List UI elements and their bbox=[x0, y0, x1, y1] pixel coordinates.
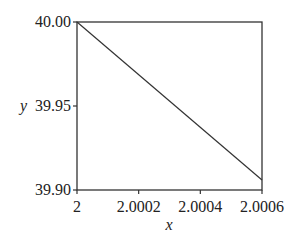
plot-frame bbox=[77, 22, 262, 190]
y-tick-label: 40.00 bbox=[35, 13, 71, 30]
y-axis-label: y bbox=[18, 97, 28, 115]
line-chart: 39.9039.9540.00 22.00022.00042.0006 y x bbox=[0, 0, 303, 241]
y-tick-label: 39.95 bbox=[35, 97, 71, 114]
data-line bbox=[77, 22, 262, 180]
x-tick-label: 2 bbox=[73, 198, 81, 215]
x-tick-label: 2.0006 bbox=[240, 198, 284, 215]
x-axis: 22.00022.00042.0006 bbox=[73, 190, 284, 215]
x-tick-label: 2.0004 bbox=[178, 198, 222, 215]
y-axis: 39.9039.9540.00 bbox=[35, 13, 77, 198]
x-axis-label: x bbox=[165, 216, 173, 233]
y-tick-label: 39.90 bbox=[35, 181, 71, 198]
x-tick-label: 2.0002 bbox=[117, 198, 161, 215]
